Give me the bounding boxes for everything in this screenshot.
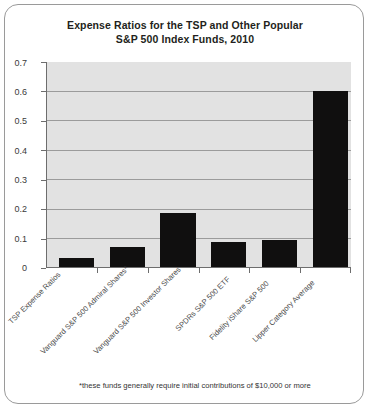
y-tick-label-0.4: 0.4 <box>0 147 27 156</box>
bar-tsp-expense-ratios[interactable] <box>59 258 94 267</box>
bar-series <box>47 62 351 267</box>
bar-vanguard-admiral-shares[interactable] <box>110 247 145 267</box>
chart-frame: Expense Ratios for the TSP and Other Pop… <box>4 4 364 404</box>
x-label-tsp-expense-ratios: TSP Expense Ratios <box>7 271 62 326</box>
y-tick-label-0.3: 0.3 <box>0 176 27 185</box>
y-tick-label-0.6: 0.6 <box>0 88 27 97</box>
bar-fidelity-ishare-sp500[interactable] <box>262 240 297 267</box>
x-label-vanguard-investor-shares: Vanguard S&P 500 Investor Shares <box>92 266 182 356</box>
y-tick-label-0.2: 0.2 <box>0 205 27 214</box>
y-tick-label-0.7: 0.7 <box>0 59 27 68</box>
bar-lipper-category-average[interactable] <box>313 91 348 267</box>
bar-spdrs-sp500-etf[interactable] <box>211 242 246 267</box>
y-tick-label-0.5: 0.5 <box>0 117 27 126</box>
chart-title-line-1: Expense Ratios for the TSP and Other Pop… <box>19 18 351 32</box>
bar-vanguard-investor-shares[interactable] <box>160 213 196 267</box>
chart-title-line-2: S&P 500 Index Funds, 2010 <box>19 32 351 46</box>
footnote-text: *these funds generally require initial c… <box>79 381 311 391</box>
chart-title: Expense Ratios for the TSP and Other Pop… <box>19 18 351 46</box>
y-tick-label-0.1: 0.1 <box>0 235 27 244</box>
x-axis-labels: TSP Expense Ratios Vanguard S&P 500 Admi… <box>5 268 365 368</box>
